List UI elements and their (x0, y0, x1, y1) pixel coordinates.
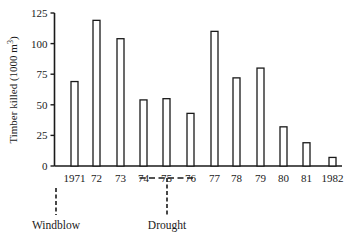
bar-1981 (303, 143, 310, 166)
bar-1976 (187, 113, 194, 166)
bar-1977 (211, 31, 218, 166)
windblow-label: Windblow (32, 219, 81, 231)
y-tick-label: 125 (31, 7, 48, 19)
bar-1975 (163, 99, 170, 166)
bar-chart: Timber killed (1000 m3) 0255075100125 19… (0, 0, 352, 238)
bar-1974 (140, 100, 147, 166)
bar-1971 (71, 82, 78, 166)
y-tick-label: 75 (37, 68, 49, 80)
x-tick-label: 80 (278, 172, 290, 184)
x-tick-label: 78 (231, 172, 243, 184)
bar-1980 (280, 127, 287, 166)
y-tick-label: 100 (31, 38, 48, 50)
bar-1979 (257, 68, 264, 166)
y-axis-title: Timber killed (1000 m3) (6, 36, 20, 144)
annotations: WindblowDrought (32, 178, 195, 232)
x-tick-label: 79 (255, 172, 267, 184)
drought-label: Drought (148, 219, 187, 232)
x-tick-labels: 1971727374757677787980811982 (64, 172, 344, 184)
bar-1978 (233, 78, 240, 166)
x-tick-label: 1971 (64, 172, 86, 184)
x-tick-label: 1982 (322, 172, 344, 184)
bars (71, 20, 336, 166)
bar-1973 (117, 39, 124, 166)
bar-1982 (329, 157, 336, 166)
bar-1972 (93, 20, 100, 166)
x-tick-label: 81 (301, 172, 312, 184)
y-tick-label: 0 (42, 160, 48, 172)
y-axis: 0255075100125 (31, 7, 55, 172)
x-tick-label: 73 (115, 172, 127, 184)
x-tick-label: 72 (91, 172, 102, 184)
y-tick-label: 50 (37, 99, 49, 111)
x-tick-label: 77 (209, 172, 221, 184)
y-tick-label: 25 (37, 129, 49, 141)
